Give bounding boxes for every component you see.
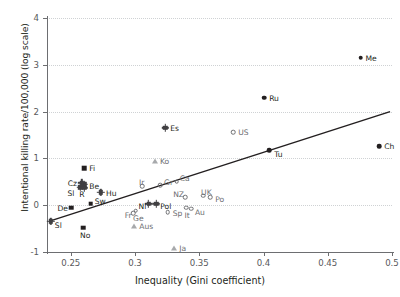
data-point-label: Hu [106,190,117,198]
data-point-label: Cz [68,180,77,188]
marker-triangle-icon [152,158,158,163]
data-point-label: Ja [179,245,186,253]
data-point-label: Sp [173,210,183,218]
y-tick-label: 1 [17,153,39,163]
marker-circle-open-icon [189,206,194,211]
marker-circle-open-icon [231,130,236,135]
y-tick-label: 4 [17,13,39,23]
marker-circle-filled-icon [358,55,363,60]
data-point-label: NZ [173,191,184,199]
data-point-label: It [184,212,189,220]
data-point-label: Sl [55,222,62,230]
scatter-chart-figure: Intentional killing rate/100,000 (log sc… [0,0,400,297]
marker-circle-open-icon [165,210,170,215]
y-tick-label: 2 [17,107,39,117]
marker-circle-open-icon [208,195,213,200]
data-point-label: Ir [139,179,144,187]
x-axis-title: Inequality (Gini coefficient) [0,275,400,286]
x-tick-label: 0.3 [115,258,155,268]
x-tick-label: 0.4 [244,258,284,268]
marker-diamond-icon [99,190,103,194]
data-point-label: Po [215,196,224,204]
x-tickmark [199,252,200,256]
marker-circle-open-icon [174,180,179,185]
marker-circle-filled-icon [262,95,267,100]
marker-circle-filled-icon [377,144,382,149]
data-point-label: Me [366,55,377,63]
marker-triangle-icon [171,246,177,251]
data-point-label: No [80,232,90,240]
y-tick-label: 0 [17,200,39,210]
marker-circle-open-icon [158,183,163,188]
data-point-label: Aus [139,223,153,231]
data-point-label: Gr [164,179,173,187]
x-tick-label: 0.5 [372,258,400,268]
data-point-label: Es [170,125,179,133]
marker-diamond-icon [146,202,150,206]
x-tickmark [135,252,136,256]
data-point-label: Fi [89,165,95,173]
data-point-label: De [57,205,68,213]
data-point-label: Sw [95,198,106,206]
x-tickmark [392,252,393,256]
x-tick-label: 0.45 [308,258,348,268]
marker-circle-filled-icon [267,148,272,153]
x-tickmark [328,252,329,256]
data-point-label: Ru [269,95,279,103]
data-point-label: Ch [384,143,394,151]
data-point-label: US [238,129,248,137]
data-point-label: Be [89,183,99,191]
y-tick-label: -1 [17,247,39,257]
data-point-label: Au [195,209,205,217]
marker-triangle-icon [131,224,137,229]
plot-area: MeRuEsUSChTuKoFiCzBeGrCaSlRIrHuUKNZPoSwN… [47,18,392,252]
trend-line [47,18,392,252]
y-tick-label: 3 [17,60,39,70]
marker-square-icon [82,166,87,171]
x-tick-label: 0.25 [51,258,91,268]
marker-square-icon [69,205,74,210]
data-point-label: Tu [274,151,282,159]
data-point-label: Ko [160,158,169,166]
x-tickmark [264,252,265,256]
data-point-label: Ca [180,175,190,183]
y-tickmark [43,252,47,253]
data-point-label: Nl [139,203,147,211]
data-point-label: Sl [67,190,74,198]
x-tick-label: 0.35 [179,258,219,268]
data-point-label: R [79,191,84,199]
x-tickmark [71,252,72,256]
marker-square-icon [88,201,93,206]
marker-diamond-icon [154,202,158,206]
marker-diamond-icon [49,219,53,223]
marker-diamond-icon [163,126,167,130]
marker-square-icon [81,225,86,230]
